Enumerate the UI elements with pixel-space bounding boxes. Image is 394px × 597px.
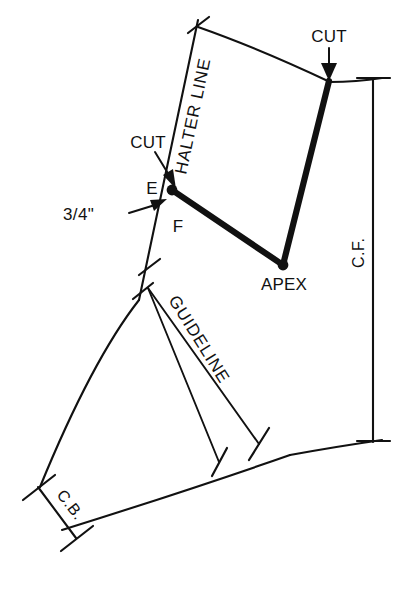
waist-curve-right-path [290,440,382,455]
measure-arrow-shaft [129,205,155,213]
construction-lines [38,20,382,538]
dart-leg-right-guideline-path [148,288,259,444]
tick-center-back-top [23,475,55,500]
guideline-label: GUIDELINE [165,292,234,387]
pattern-diagram-canvas: CUT CUT 3/4" E F APEX HALTER LINE GUIDEL… [0,0,394,597]
point-e-label: E [146,179,157,198]
bold-line-apex-to-cut [283,81,329,265]
bold-line-e-to-apex [172,190,283,265]
center-back-label: C.B. [54,486,88,523]
text-labels: CUT CUT 3/4" E F APEX HALTER LINE GUIDEL… [54,27,367,523]
point-f-label: F [173,217,183,236]
apex-label: APEX [261,275,307,294]
pattern-drawing: CUT CUT 3/4" E F APEX HALTER LINE GUIDEL… [0,0,394,597]
side-seam-curve-path [40,300,139,487]
measurement-label: 3/4" [63,205,94,224]
tick-halter-dart [139,259,160,275]
neckline-curve-path [198,27,330,82]
annotation-arrows [129,48,337,213]
point-apex-dot [278,260,289,271]
cut-left-label: CUT [130,133,166,152]
center-front-label: C.F. [350,238,367,268]
waist-curve-path [62,455,290,530]
cut-top-label: CUT [311,27,347,46]
point-e-dot [167,185,178,196]
